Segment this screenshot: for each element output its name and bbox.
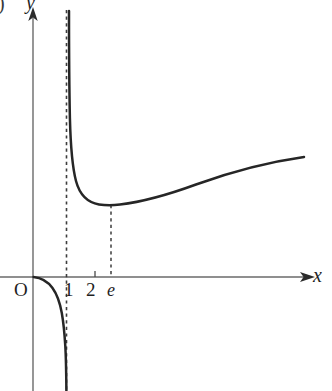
x-tick-label-1: 1: [64, 280, 74, 299]
x-tick-label-e: e: [107, 281, 115, 299]
curve-left-branch: [34, 277, 67, 391]
y-axis-label: y: [26, 0, 35, 12]
corner-bracket-mark: ): [0, 0, 5, 13]
function-graph-figure: ) y x O 1 2 e: [0, 0, 332, 391]
origin-label: O: [14, 280, 28, 299]
plot-canvas: [0, 0, 332, 391]
x-axis-label: x: [313, 265, 322, 285]
curve-right-branch: [69, 11, 304, 205]
x-tick-label-2: 2: [86, 280, 96, 299]
